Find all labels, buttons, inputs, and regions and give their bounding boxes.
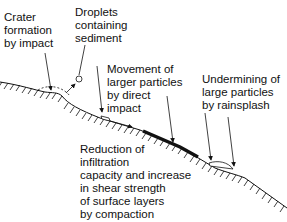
label-movement: Movement of larger particles by direct i… (107, 63, 182, 115)
droplet-icon (76, 76, 82, 82)
label-undermining: Undermining of large particles by rainsp… (202, 73, 280, 112)
label-droplets: Droplets containing sediment (75, 6, 127, 45)
label-crater-formation: Crater formation by impact (4, 11, 53, 50)
label-reduction: Reduction of infiltration capacity and i… (80, 143, 191, 221)
particle-moved (101, 116, 110, 121)
undermined-particle (209, 162, 233, 169)
